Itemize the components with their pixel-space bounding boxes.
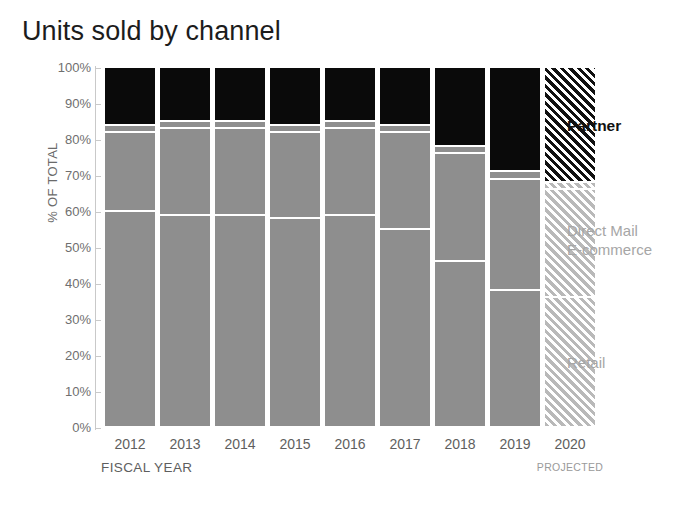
legend-item-e-commerce[interactable]: E-commerce (567, 241, 652, 258)
x-axis-label: 2017 (380, 436, 430, 452)
bar-column[interactable] (490, 0, 540, 506)
bar-segment[interactable] (270, 219, 320, 426)
bar-segment[interactable] (160, 129, 210, 213)
bar-segment[interactable] (215, 129, 265, 213)
x-axis-label: 2020 (545, 436, 595, 452)
bar-segment[interactable] (105, 126, 155, 131)
bar-column[interactable] (380, 0, 430, 506)
bar-segment[interactable] (215, 122, 265, 127)
plot-area: % OF TOTAL 100%90%80%70%60%50%40%30%20%1… (0, 0, 699, 506)
bar-segment[interactable] (435, 68, 485, 145)
bar-segment[interactable] (105, 68, 155, 124)
bar-column[interactable] (215, 0, 265, 506)
bar-segment[interactable] (380, 133, 430, 228)
bar-segment[interactable] (490, 172, 540, 177)
x-axis-label: 2014 (215, 436, 265, 452)
x-axis-label: 2019 (490, 436, 540, 452)
bar-segment[interactable] (215, 68, 265, 120)
bar-column[interactable] (105, 0, 155, 506)
bar-segment[interactable] (435, 147, 485, 152)
bar-segment[interactable] (215, 216, 265, 426)
bar-segment[interactable] (270, 126, 320, 131)
bar-column[interactable] (435, 0, 485, 506)
legend-item-retail[interactable]: Retail (567, 354, 605, 371)
bar-segment[interactable] (490, 291, 540, 426)
bar-segment[interactable] (380, 68, 430, 124)
legend-item-partner[interactable]: Partner (567, 117, 621, 135)
bar-segment[interactable] (435, 262, 485, 426)
bar-segment[interactable] (160, 216, 210, 426)
projected-note: PROJECTED (533, 461, 607, 473)
bar-segment[interactable] (490, 180, 540, 290)
x-axis-label: 2012 (105, 436, 155, 452)
bar-segment[interactable] (545, 183, 595, 188)
bar-column[interactable] (160, 0, 210, 506)
bar-segment[interactable] (490, 68, 540, 170)
bar-segment[interactable] (270, 68, 320, 124)
chart-container: Units sold by channel % OF TOTAL 100%90%… (0, 0, 699, 506)
bar-column[interactable] (270, 0, 320, 506)
x-axis-label: 2013 (160, 436, 210, 452)
bar-segment[interactable] (105, 212, 155, 426)
bar-segment[interactable] (325, 122, 375, 127)
bar-segment[interactable] (270, 133, 320, 217)
bar-segment[interactable] (325, 129, 375, 213)
bar-segment[interactable] (380, 126, 430, 131)
x-axis-label: 2015 (270, 436, 320, 452)
bar-segment[interactable] (435, 154, 485, 260)
bar-segment[interactable] (160, 68, 210, 120)
x-axis-label: 2016 (325, 436, 375, 452)
bar-column[interactable] (325, 0, 375, 506)
bar-segment[interactable] (160, 122, 210, 127)
x-axis-title: FISCAL YEAR (101, 460, 192, 475)
bar-segment[interactable] (325, 68, 375, 120)
bar-segment[interactable] (105, 133, 155, 210)
x-axis-label: 2018 (435, 436, 485, 452)
bar-segment[interactable] (325, 216, 375, 426)
bar-segment[interactable] (380, 230, 430, 426)
legend-item-direct-mail[interactable]: Direct Mail (567, 222, 638, 239)
